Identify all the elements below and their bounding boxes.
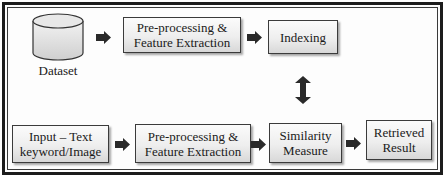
preprocessing-bottom-box: Pre-processing & Feature Extraction bbox=[135, 124, 251, 163]
indexing-label: Indexing bbox=[280, 30, 326, 45]
preprocessing-bottom-line2: Feature Extraction bbox=[145, 144, 241, 159]
dataset-node bbox=[32, 13, 84, 61]
arrow-right-icon bbox=[96, 31, 111, 44]
result-line1: Retrieved bbox=[374, 125, 425, 140]
arrow-right-icon bbox=[346, 137, 361, 150]
indexing-box: Indexing bbox=[268, 20, 338, 54]
arrow-right-icon bbox=[247, 31, 262, 44]
similarity-line1: Similarity bbox=[280, 128, 332, 143]
arrow-right-icon bbox=[115, 138, 130, 151]
double-arrow-vertical-icon bbox=[295, 76, 311, 104]
result-line2: Result bbox=[374, 140, 425, 155]
retrieved-result-box: Retrieved Result bbox=[366, 120, 432, 160]
arrow-right-icon bbox=[251, 138, 266, 151]
preprocessing-bottom-line1: Pre-processing & bbox=[145, 129, 241, 144]
similarity-line2: Measure bbox=[280, 143, 332, 158]
similarity-measure-box: Similarity Measure bbox=[269, 123, 342, 163]
preprocessing-top-line1: Pre-processing & bbox=[134, 20, 230, 35]
input-line1: Input – Text bbox=[20, 129, 102, 144]
dataset-label: Dataset bbox=[28, 63, 88, 79]
database-cylinder-icon bbox=[32, 13, 84, 61]
input-line2: keyword/Image bbox=[20, 144, 102, 159]
preprocessing-top-box: Pre-processing & Feature Extraction bbox=[123, 17, 241, 53]
input-box: Input – Text keyword/Image bbox=[12, 125, 109, 163]
preprocessing-top-line2: Feature Extraction bbox=[134, 35, 230, 50]
